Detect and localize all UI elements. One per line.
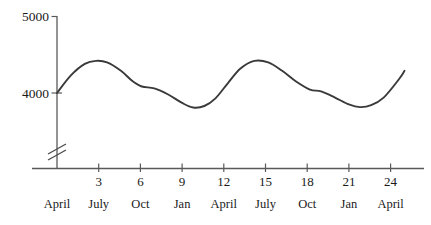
line-chart: 5000 4000 3 6 9 12 15 18 21 24 April Jul… [0,0,431,225]
x-month-label-6: Oct [298,197,317,211]
x-month-label-8: April [377,197,404,211]
x-month-label-1: July [88,197,110,211]
x-tick-label-21: 21 [342,174,355,189]
x-month-label-4: April [211,197,238,211]
x-month-label-5: July [255,197,277,211]
x-tick-label-9: 9 [179,174,186,189]
x-tick-label-18: 18 [301,174,314,189]
x-month-label-3: Jan [174,197,191,211]
chart-container: 5000 4000 3 6 9 12 15 18 21 24 April Jul… [0,0,431,225]
data-series-line [57,60,405,107]
x-tick-marks [99,164,391,173]
x-month-label-7: Jan [341,197,358,211]
x-month-label-0: April [44,197,71,211]
y-tick-label-5000: 5000 [22,9,49,24]
x-tick-label-24: 24 [384,174,398,189]
y-tick-label-4000: 4000 [22,86,49,101]
x-month-label-2: Oct [131,197,150,211]
x-tick-label-12: 12 [217,174,230,189]
x-tick-label-15: 15 [259,174,272,189]
x-tick-label-6: 6 [137,174,144,189]
x-tick-label-3: 3 [95,174,102,189]
